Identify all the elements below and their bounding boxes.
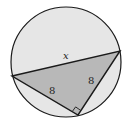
label-left-leg: 8: [49, 85, 55, 96]
label-hypotenuse: x: [63, 50, 69, 61]
geometry-diagram: x 8 8: [0, 0, 133, 124]
label-right-leg: 8: [88, 75, 94, 86]
